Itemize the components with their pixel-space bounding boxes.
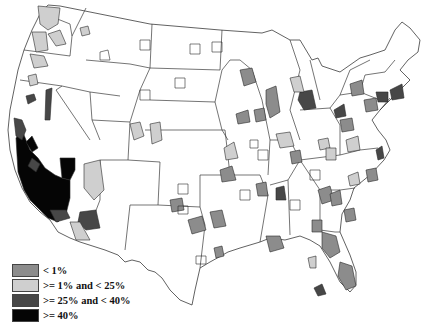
- legend-item-gte-40: >= 40%: [12, 308, 130, 323]
- legend-swatch: [12, 264, 39, 277]
- map-legend: < 1% >= 1% and < 25% >= 25% and < 40% >=…: [12, 263, 130, 323]
- legend-item-1-to-25: >= 1% and < 25%: [12, 278, 130, 293]
- legend-label: >= 1% and < 25%: [43, 280, 125, 291]
- legend-item-lt-1: < 1%: [12, 263, 130, 278]
- legend-swatch: [12, 279, 39, 292]
- legend-label: >= 40%: [43, 310, 79, 321]
- us-outline: [8, 5, 420, 305]
- legend-label: < 1%: [43, 265, 67, 276]
- legend-label: >= 25% and < 40%: [43, 295, 130, 306]
- legend-swatch: [12, 309, 39, 322]
- legend-item-25-to-40: >= 25% and < 40%: [12, 293, 130, 308]
- legend-swatch: [12, 294, 39, 307]
